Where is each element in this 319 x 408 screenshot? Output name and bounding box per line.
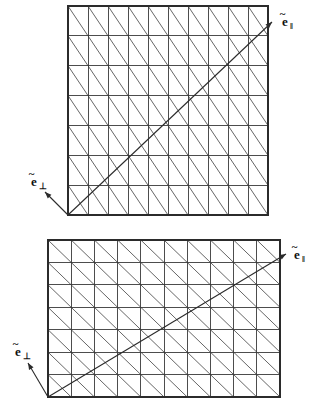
axis-label-base-e-parallel: e	[282, 14, 288, 29]
triangular-mesh-figure: ~e‖~e⊥ ~e‖~e⊥	[0, 0, 319, 408]
figure-root: ~e‖~e⊥ ~e‖~e⊥	[0, 0, 319, 408]
axis-label-base-e-perp: e	[31, 174, 37, 189]
axis-label-subscript-e-parallel: ‖	[290, 21, 293, 31]
axis-label-base-e-perp: e	[15, 344, 21, 359]
axis-label-subscript-e-perp: ⊥	[39, 181, 47, 191]
axis-label-subscript-e-parallel: ‖	[302, 254, 305, 264]
axis-label-base-e-parallel: e	[294, 247, 300, 262]
axis-label-subscript-e-perp: ⊥	[23, 351, 31, 361]
